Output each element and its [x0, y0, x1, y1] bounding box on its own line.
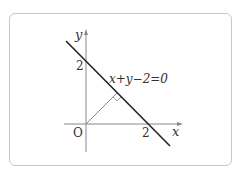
y-intercept-label: 2: [76, 59, 84, 73]
origin-label: O: [73, 126, 83, 140]
x-intercept-label: 2: [142, 126, 150, 140]
coordinate-diagram: y x O 2 2 x+y−2=0: [0, 0, 243, 180]
y-axis-arrow-icon: [84, 29, 88, 35]
line-equation-label: x+y−2=0: [109, 72, 168, 86]
right-angle-marker: [113, 97, 121, 101]
perpendicular-segment: [86, 93, 117, 124]
x-axis-label: x: [172, 124, 180, 139]
y-axis-label: y: [74, 27, 83, 42]
